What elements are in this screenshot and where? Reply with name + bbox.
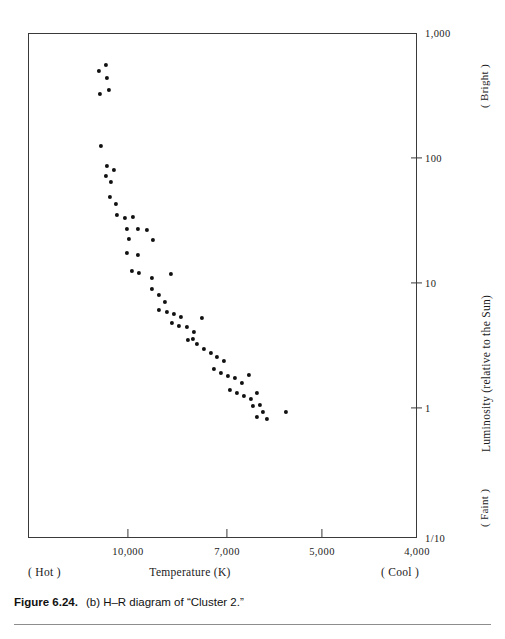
scatter-point <box>145 228 149 232</box>
x-axis-cool-annotation: ( Cool ) <box>381 566 419 578</box>
scatter-point <box>284 410 288 414</box>
scatter-point <box>172 312 176 316</box>
scatter-point <box>107 88 111 92</box>
plot-frame <box>28 33 417 538</box>
y-tick-label: 100 <box>425 153 442 164</box>
scatter-point <box>209 351 213 355</box>
scatter-point <box>112 168 116 172</box>
scatter-point <box>157 293 161 297</box>
scatter-point <box>202 347 206 351</box>
scatter-point <box>212 367 216 371</box>
scatter-point <box>109 180 113 184</box>
scatter-point <box>233 376 237 380</box>
scatter-point <box>131 215 135 219</box>
scatter-point <box>247 373 251 377</box>
scatter-point <box>265 417 269 421</box>
scatter-point <box>219 371 223 375</box>
y-tick-mark <box>411 282 422 283</box>
scatter-point <box>191 337 195 341</box>
scatter-point <box>192 330 196 334</box>
scatter-point <box>105 164 109 168</box>
scatter-point <box>169 272 173 276</box>
scatter-plot-area <box>29 34 416 537</box>
scatter-point <box>105 76 109 80</box>
scatter-point <box>98 92 102 96</box>
scatter-point <box>136 227 140 231</box>
x-tick-label: 10,000 <box>112 546 143 557</box>
x-tick-label: 4,000 <box>404 546 430 557</box>
x-tick-mark <box>321 529 322 538</box>
x-tick-label: 7,000 <box>214 546 240 557</box>
x-tick-mark <box>127 529 128 538</box>
scatter-point <box>215 355 219 359</box>
scatter-point <box>255 391 259 395</box>
x-axis-hot-annotation: ( Hot ) <box>28 566 61 578</box>
scatter-point <box>228 388 232 392</box>
scatter-point <box>179 315 183 319</box>
scatter-point <box>195 342 199 346</box>
scatter-point <box>137 271 141 275</box>
scatter-point <box>108 195 112 199</box>
y-tick-mark <box>411 407 422 408</box>
scatter-point <box>123 216 127 220</box>
scatter-point <box>97 69 101 73</box>
scatter-point <box>235 391 239 395</box>
caption-divider-rule <box>14 624 491 625</box>
scatter-point <box>150 287 154 291</box>
scatter-point <box>136 253 140 257</box>
figure-caption: Figure 6.24.(b) H–R diagram of “Cluster … <box>14 596 244 608</box>
y-tick-label: 1,000 <box>425 28 451 39</box>
figure-number: Figure 6.24. <box>14 596 78 608</box>
y-tick-label: 1/10 <box>425 533 445 544</box>
scatter-point <box>115 213 119 217</box>
scatter-point <box>157 308 161 312</box>
x-tick-label: 5,000 <box>309 546 335 557</box>
scatter-point <box>99 144 103 148</box>
y-axis-bright-annotation: ( Bright ) <box>478 64 490 108</box>
scatter-point <box>127 237 131 241</box>
scatter-point <box>170 321 174 325</box>
scatter-point <box>163 300 167 304</box>
y-axis-faint-annotation: ( Faint ) <box>478 489 490 527</box>
scatter-point <box>104 174 108 178</box>
scatter-point <box>114 202 118 206</box>
scatter-point <box>177 324 181 328</box>
x-tick-mark <box>226 529 227 538</box>
scatter-point <box>125 251 129 255</box>
scatter-point <box>251 404 255 408</box>
scatter-point <box>258 403 262 407</box>
scatter-point <box>150 276 154 280</box>
scatter-point <box>104 63 108 67</box>
scatter-point <box>151 238 155 242</box>
scatter-point <box>200 316 204 320</box>
y-axis-title: Luminosity (relative to the Sun) <box>480 295 492 452</box>
x-axis-title: Temperature (K) <box>149 566 230 578</box>
y-tick-mark <box>411 157 422 158</box>
scatter-point <box>226 374 230 378</box>
figure-caption-text: (b) H–R diagram of “Cluster 2.” <box>86 596 244 608</box>
scatter-point <box>125 227 129 231</box>
scatter-point <box>222 359 226 363</box>
scatter-point <box>165 310 169 314</box>
scatter-point <box>130 269 134 273</box>
scatter-point <box>261 410 265 414</box>
scatter-point <box>255 415 259 419</box>
scatter-point <box>186 338 190 342</box>
y-tick-label: 1 <box>425 403 431 414</box>
figure-container: 10,0007,0005,0004,000 1,0001001011/10 ( … <box>0 0 505 639</box>
scatter-point <box>249 397 253 401</box>
y-tick-label: 10 <box>425 278 436 289</box>
scatter-point <box>240 381 244 385</box>
scatter-point <box>242 394 246 398</box>
scatter-point <box>185 325 189 329</box>
